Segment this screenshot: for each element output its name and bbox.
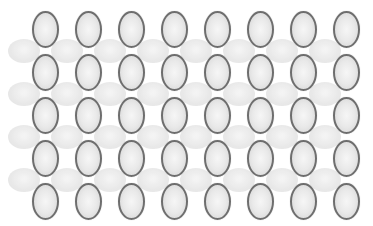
- vertical-oval: [290, 11, 317, 48]
- vertical-oval: [161, 11, 188, 48]
- vertical-oval: [161, 54, 188, 91]
- vertical-oval: [118, 54, 145, 91]
- vertical-oval: [204, 140, 231, 177]
- vertical-oval: [247, 140, 274, 177]
- vertical-oval: [118, 140, 145, 177]
- vertical-oval: [333, 97, 360, 134]
- vertical-oval: [290, 54, 317, 91]
- vertical-oval: [161, 140, 188, 177]
- vertical-oval: [32, 54, 59, 91]
- vertical-oval: [32, 97, 59, 134]
- vertical-oval: [247, 183, 274, 220]
- vertical-oval: [75, 54, 102, 91]
- vertical-oval: [32, 183, 59, 220]
- vertical-oval: [118, 97, 145, 134]
- vertical-oval: [75, 183, 102, 220]
- vertical-oval: [161, 97, 188, 134]
- vertical-oval: [204, 183, 231, 220]
- vertical-oval: [32, 140, 59, 177]
- vertical-oval: [333, 183, 360, 220]
- vertical-oval: [161, 183, 188, 220]
- vertical-oval: [204, 97, 231, 134]
- oval-pattern: [0, 0, 373, 226]
- vertical-oval: [290, 183, 317, 220]
- vertical-oval: [333, 140, 360, 177]
- vertical-oval: [290, 140, 317, 177]
- vertical-oval: [333, 54, 360, 91]
- vertical-oval: [290, 97, 317, 134]
- vertical-oval: [204, 11, 231, 48]
- vertical-oval: [75, 97, 102, 134]
- vertical-oval: [333, 11, 360, 48]
- vertical-oval: [75, 140, 102, 177]
- vertical-oval: [75, 11, 102, 48]
- vertical-oval: [247, 11, 274, 48]
- vertical-oval: [247, 97, 274, 134]
- vertical-oval: [118, 183, 145, 220]
- vertical-oval: [204, 54, 231, 91]
- vertical-oval: [247, 54, 274, 91]
- vertical-oval: [32, 11, 59, 48]
- vertical-oval: [118, 11, 145, 48]
